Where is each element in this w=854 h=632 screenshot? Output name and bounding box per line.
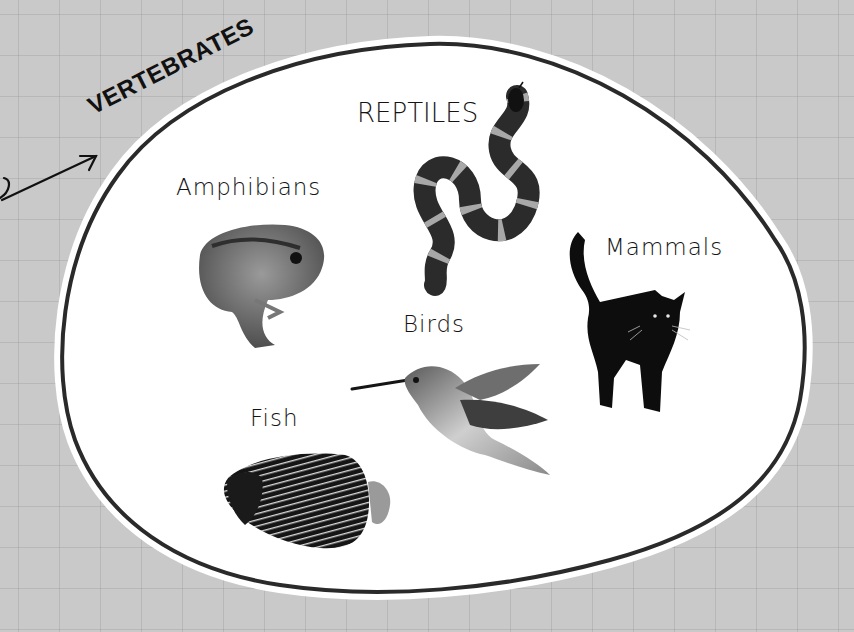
group-label-fish: Fish [250, 407, 299, 430]
group-label-birds: Birds [403, 313, 465, 336]
arrow-icon [0, 156, 96, 200]
group-label-mammals: Mammals [605, 236, 723, 259]
group-label-amphibians: Amphibians [176, 176, 321, 199]
group-label-reptiles: REPTILES [357, 100, 478, 126]
vertebrates-diagram: VERTEBRATES Amphibians REPTILES Mammals … [0, 0, 854, 632]
